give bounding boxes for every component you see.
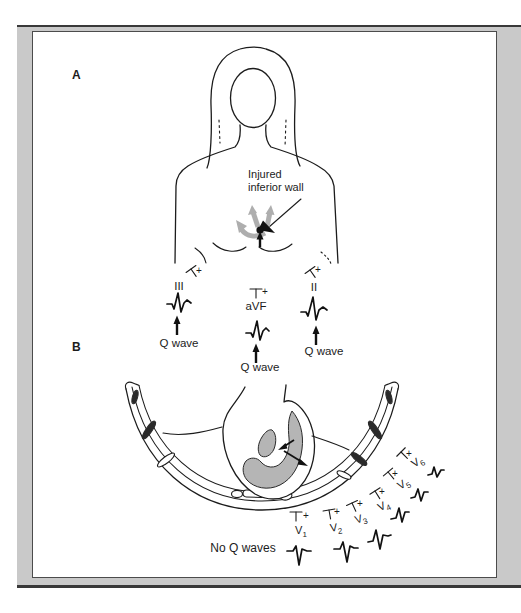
heart-cross-section <box>163 385 349 499</box>
lead-V2-number: 2 <box>337 526 343 536</box>
qwave-arrow-III-head <box>174 316 181 325</box>
lead-V1-number: 1 <box>302 530 306 539</box>
ecg-lead-V3 <box>368 530 391 549</box>
ecg-lead-V2 <box>334 542 358 562</box>
lead-V1-label: V1 <box>291 524 311 539</box>
lead-V4-number: 4 <box>385 503 393 513</box>
ecg-lead-aVF <box>246 321 269 340</box>
right-armpit-line <box>321 252 331 264</box>
left-chest-line <box>213 243 246 251</box>
electrode-plus-V2: + <box>334 506 340 517</box>
right-chest-line <box>259 244 292 251</box>
hair-strand-left <box>219 120 220 143</box>
heart-left-connector <box>163 427 222 434</box>
ecg-lead-V6 <box>428 467 444 477</box>
qwave-label-II: Q wave <box>296 345 352 357</box>
electrode-plus-V3: + <box>357 498 363 509</box>
electrode-plus-II: + <box>315 264 321 275</box>
qwave-label-III: Q wave <box>151 337 207 349</box>
electrode-plus-aVF: + <box>262 286 268 297</box>
lead-III-label: III <box>166 280 192 292</box>
rib-right-4 <box>336 469 352 480</box>
injury-label-line2: inferior wall <box>248 181 304 194</box>
injury-vectors <box>236 199 301 247</box>
face-outline <box>231 69 276 128</box>
electrode-plus-V4: + <box>379 486 385 497</box>
torso-outline-drawing <box>175 47 338 264</box>
rib-right-1 <box>385 390 394 405</box>
electrode-plus-III: + <box>196 265 202 276</box>
heart-right-connector <box>312 436 349 450</box>
torso-left-edge <box>175 125 240 263</box>
lead-V2-label: V2 <box>325 520 347 538</box>
ecg-lead-III <box>167 293 191 312</box>
section-b-label: B <box>72 340 81 354</box>
qwave-label-aVF: Q wave <box>232 361 288 373</box>
lead-V5-number: 5 <box>405 480 413 490</box>
ecg-lead-II <box>301 297 327 320</box>
electrode-plus-V1: + <box>303 510 309 521</box>
qwave-arrow-II-head <box>313 326 320 335</box>
electrode-lead-V1 <box>290 512 302 521</box>
electrode-plus-V5: + <box>392 468 398 479</box>
ecg-lead-V1 <box>287 546 311 565</box>
injury-label-line1: Injured <box>248 168 304 181</box>
sternum-left-node <box>232 490 243 497</box>
hair-strand-right <box>285 120 286 147</box>
torso-right-edge <box>266 125 338 263</box>
left-armpit-line <box>195 248 206 263</box>
gray-vector-upright-head <box>266 205 275 215</box>
lead-II-label: II <box>300 281 328 293</box>
rib-left-1 <box>131 390 140 405</box>
lead-V3-number: 3 <box>362 516 369 526</box>
ecg-lead-V5 <box>411 489 428 501</box>
hair-outline <box>207 47 300 168</box>
qwave-arrow-aVF-head <box>253 344 260 353</box>
section-a-label: A <box>72 68 81 82</box>
figure-page: + + + <box>0 0 521 613</box>
gray-vector-upleft <box>253 212 258 227</box>
injury-label: Injured inferior wall <box>248 168 304 194</box>
electrode-lead-aVF <box>250 289 262 298</box>
lead-aVF-label: aVF <box>240 300 272 312</box>
no-q-waves-label: No Q waves <box>204 541 282 555</box>
